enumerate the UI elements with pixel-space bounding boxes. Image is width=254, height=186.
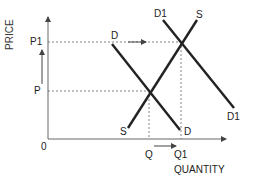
demand-curve-d bbox=[112, 44, 180, 130]
s-bottom-label: S bbox=[120, 127, 127, 137]
supply-curve-s bbox=[128, 20, 197, 128]
quantity-axis-label: QUANTITY bbox=[174, 165, 225, 175]
d1-top-label: D1 bbox=[154, 9, 167, 19]
demand-curve-d1 bbox=[163, 20, 234, 108]
d1-bottom-label: D1 bbox=[227, 112, 240, 122]
q-label: Q bbox=[145, 150, 153, 160]
s-top-label: S bbox=[196, 10, 203, 20]
p-label: P bbox=[34, 86, 41, 96]
p1-label: P1 bbox=[30, 37, 42, 47]
d-top-label: D bbox=[111, 31, 118, 41]
d-bottom-label: D bbox=[184, 127, 191, 137]
price-axis-label: PRICE bbox=[4, 19, 15, 50]
q1-label: Q1 bbox=[174, 150, 187, 160]
origin-label: 0 bbox=[41, 142, 47, 152]
